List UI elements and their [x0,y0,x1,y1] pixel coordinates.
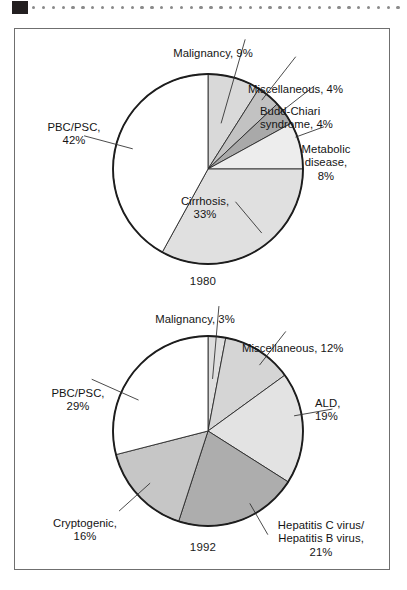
label-miscellaneous-1980: Miscellaneous, 4% [248,83,398,96]
label-metabolic-disease-1980: Metabolic disease, 8% [274,143,378,183]
decoration-dot [219,6,222,9]
decoration-dot [328,6,331,9]
pie-chart-1992: Malignancy, 3% Miscellaneous, 12% ALD, 1… [15,301,391,571]
label-malignancy-1992: Malignancy, 3% [120,313,270,326]
decoration-dot [101,6,104,9]
decoration-dot [81,6,84,9]
decoration-dot [367,6,370,9]
decoration-dot [160,6,163,9]
decoration-dot [170,6,173,9]
top-decoration-strip [0,0,407,18]
label-budd-chiari-1980: Budd-Chiari syndrome, 4% [260,105,390,132]
label-miscellaneous-1992: Miscellaneous, 12% [242,342,392,355]
label-cirrhosis-1980: Cirrhosis, 33% [152,195,258,222]
decoration-dot [259,6,262,9]
label-malignancy-1980: Malignancy, 9% [145,47,281,60]
decoration-dot [268,6,271,9]
decoration-dot [347,6,350,9]
decoration-dot [71,6,74,9]
label-pbc-psc-1992: PBC/PSC, 29% [28,387,128,414]
figure-page: Malignancy, 9% Miscellaneous, 4% Budd-Ch… [0,0,407,590]
label-ald-1992: ALD, 19% [315,397,385,424]
label-cryptogenic-1992: Cryptogenic, 16% [27,517,143,544]
caption-1980: 1980 [15,275,391,287]
dot-row-decoration [32,6,404,10]
pie-chart-1980: Malignancy, 9% Miscellaneous, 4% Budd-Ch… [15,29,391,301]
decoration-dot [229,6,232,9]
label-hepatitis-1992: Hepatitis C virus/ Hepatitis B virus, 21… [251,519,391,559]
caption-1992: 1992 [15,541,391,553]
decoration-dot [111,6,114,9]
decoration-dot [91,6,94,9]
figure-frame: Malignancy, 9% Miscellaneous, 4% Budd-Ch… [14,28,390,570]
decoration-dot [140,6,143,9]
decoration-dot [52,6,55,9]
decoration-dot [357,6,360,9]
decoration-dot [209,6,212,9]
decoration-dot [42,6,45,9]
decoration-dot [121,6,124,9]
decoration-dot [288,6,291,9]
decoration-dot [396,6,399,9]
decoration-dot [190,6,193,9]
decoration-dot [239,6,242,9]
decoration-dot [131,6,134,9]
decoration-dot [180,6,183,9]
decoration-dot [308,6,311,9]
decoration-dot [62,6,65,9]
decoration-dot [387,6,390,9]
decoration-dot [298,6,301,9]
decoration-dot [249,6,252,9]
corner-block-icon [12,1,28,14]
decoration-dot [150,6,153,9]
decoration-dot [32,6,35,9]
decoration-dot [377,6,380,9]
decoration-dot [337,6,340,9]
decoration-dot [278,6,281,9]
decoration-dot [318,6,321,9]
decoration-dot [199,6,202,9]
label-pbc-psc-1980: PBC/PSC, 42% [24,121,124,148]
